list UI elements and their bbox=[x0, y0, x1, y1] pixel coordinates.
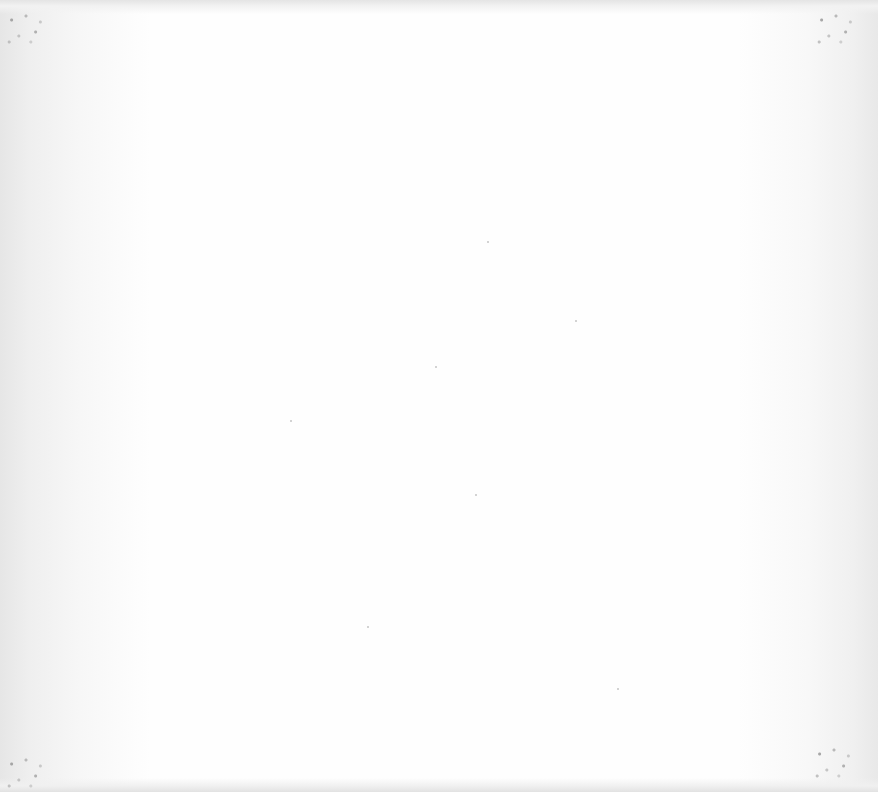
blank-scanned-page bbox=[0, 0, 878, 792]
dust-speck bbox=[290, 420, 292, 422]
bottom-edge-shadow bbox=[0, 778, 878, 792]
scan-noise-bottom-left bbox=[2, 752, 50, 792]
left-edge-shadow bbox=[0, 0, 150, 792]
dust-speck bbox=[575, 320, 577, 322]
scan-noise-top-left bbox=[2, 8, 50, 48]
dust-speck bbox=[475, 494, 477, 496]
dust-speck bbox=[435, 366, 437, 368]
dust-speck bbox=[487, 241, 489, 243]
dust-speck bbox=[617, 688, 619, 690]
scan-noise-top-right bbox=[812, 8, 860, 48]
right-edge-shadow bbox=[738, 0, 878, 792]
dust-speck bbox=[367, 626, 369, 628]
scan-noise-bottom-right bbox=[810, 742, 858, 782]
top-edge-shadow bbox=[0, 0, 878, 14]
